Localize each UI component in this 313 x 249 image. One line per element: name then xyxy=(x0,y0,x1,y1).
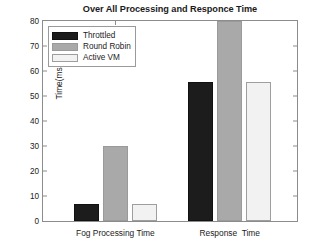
legend-label: Round Robin xyxy=(83,42,131,51)
y-tick-mark xyxy=(293,146,297,147)
bar-throttled-1 xyxy=(188,82,213,222)
y-tick-mark xyxy=(43,196,47,197)
y-tick-label: 0 xyxy=(34,217,39,226)
legend-item-throttled[interactable]: Throttled xyxy=(52,30,131,41)
y-tick-label: 10 xyxy=(30,192,39,201)
legend-label: Throttled xyxy=(83,31,115,40)
x-category-label: Response Time xyxy=(199,228,260,238)
y-tick-mark xyxy=(43,121,47,122)
y-tick-mark xyxy=(43,46,47,47)
chart-title: Over All Processing and Responce Time xyxy=(42,4,298,14)
y-tick-mark xyxy=(293,121,297,122)
chart-legend: ThrottledRound RobinActive VM xyxy=(48,26,136,67)
legend-swatch-icon xyxy=(52,32,78,40)
x-tick-mark xyxy=(115,21,116,25)
x-category-label: Fog Processing Time xyxy=(76,228,155,238)
legend-swatch-icon xyxy=(52,43,78,51)
plot-area: Time(ms) 01020304050607080 Fog Processin… xyxy=(42,20,298,222)
bar-round-robin-0 xyxy=(103,146,128,221)
y-tick-mark xyxy=(293,46,297,47)
bar-active-vm-0 xyxy=(132,204,157,221)
chart-figure: Over All Processing and Responce Time Ti… xyxy=(0,0,313,249)
y-tick-mark xyxy=(293,71,297,72)
y-tick-mark xyxy=(43,71,47,72)
y-tick-mark xyxy=(293,196,297,197)
y-tick-label: 30 xyxy=(30,142,39,151)
legend-label: Active VM xyxy=(83,53,120,62)
bar-round-robin-1 xyxy=(217,21,242,221)
y-tick-mark xyxy=(43,171,47,172)
y-tick-mark xyxy=(43,146,47,147)
legend-item-active-vm[interactable]: Active VM xyxy=(52,52,131,63)
legend-item-round-robin[interactable]: Round Robin xyxy=(52,41,131,52)
y-tick-label: 70 xyxy=(30,42,39,51)
y-tick-label: 60 xyxy=(30,67,39,76)
y-tick-mark xyxy=(293,96,297,97)
y-tick-label: 20 xyxy=(30,167,39,176)
plot-inner: Time(ms) 01020304050607080 Fog Processin… xyxy=(43,21,297,221)
y-tick-label: 50 xyxy=(30,92,39,101)
y-tick-label: 40 xyxy=(30,117,39,126)
legend-swatch-icon xyxy=(52,54,78,62)
bar-active-vm-1 xyxy=(246,82,271,222)
y-tick-label: 80 xyxy=(30,17,39,26)
bar-throttled-0 xyxy=(74,204,99,221)
y-tick-mark xyxy=(43,96,47,97)
y-tick-mark xyxy=(293,171,297,172)
